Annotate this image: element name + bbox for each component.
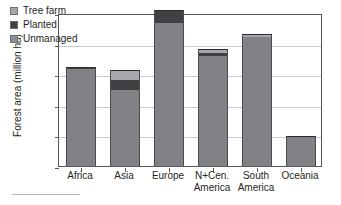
y-tick-mark (55, 137, 59, 138)
legend-label: Tree farm (23, 5, 66, 18)
bar-n-cen-america (198, 49, 228, 166)
bar-segment-unmanaged (66, 69, 96, 166)
forest-area-bar-chart: Forest area (million ha) 020040060080010… (0, 0, 341, 205)
legend-swatch-planted-icon (10, 21, 18, 29)
legend-swatch-tree-farm-icon (10, 7, 18, 15)
legend-item: Unmanaged (10, 33, 77, 46)
gridline (59, 76, 321, 77)
bar-oceania (286, 136, 316, 166)
bar-segment-unmanaged (154, 23, 184, 166)
x-tick-label: Oceania (264, 170, 336, 182)
legend-swatch-unmanaged-icon (10, 35, 18, 43)
x-tick-label-line: America (220, 182, 292, 194)
y-tick-mark (55, 107, 59, 108)
scan-artifact-line (12, 194, 80, 195)
legend-item: Planted (10, 19, 77, 32)
gridline (59, 107, 321, 108)
bar-asia (110, 70, 140, 166)
legend-label: Planted (23, 19, 57, 32)
legend-item: Tree farm (10, 5, 77, 18)
bar-segment-planted (154, 11, 184, 22)
gridline (59, 137, 321, 138)
bar-segment-planted (110, 80, 140, 90)
plot-area (58, 14, 322, 167)
bar-segment-unmanaged (198, 56, 228, 166)
legend-label: Unmanaged (23, 33, 77, 46)
bar-segment-unmanaged (286, 136, 316, 166)
bar-europe (154, 10, 184, 166)
x-tick-label-line: Oceania (264, 170, 336, 182)
legend: Tree farm Planted Unmanaged (10, 5, 77, 47)
bar-segment-unmanaged (242, 37, 272, 166)
bar-segment-unmanaged (110, 90, 140, 166)
bar-south-america (242, 34, 272, 166)
y-tick-mark (55, 168, 59, 169)
y-tick-mark (55, 76, 59, 77)
bar-segment-treefarm (110, 70, 140, 81)
bar-africa (66, 67, 96, 166)
gridline (59, 46, 321, 47)
